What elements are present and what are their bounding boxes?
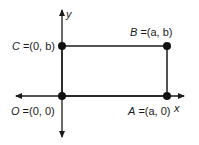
point-B xyxy=(163,42,171,50)
point-A xyxy=(163,92,171,100)
y-axis-label: y xyxy=(65,8,73,20)
label-O-coords: (0, 0) xyxy=(29,105,55,117)
x-axis-label: x xyxy=(173,102,180,114)
label-B-name: B xyxy=(130,26,137,38)
label-C-name: C xyxy=(12,40,20,52)
label-A: A =(a, 0) xyxy=(127,105,171,117)
point-C xyxy=(58,42,66,50)
coordinate-diagram: y x C =(0, b) B =(a, b) O =(0, 0) A =(a,… xyxy=(0,0,199,145)
label-O: O =(0, 0) xyxy=(11,105,55,117)
label-C: C =(0, b) xyxy=(12,40,55,52)
label-B-coords: (a, b) xyxy=(147,26,173,38)
label-A-coords: (a, 0) xyxy=(145,105,171,117)
point-O xyxy=(58,92,66,100)
label-O-name: O xyxy=(11,105,20,117)
label-A-name: A xyxy=(127,105,135,117)
label-B: B =(a, b) xyxy=(130,26,173,38)
label-C-coords: (0, b) xyxy=(29,40,55,52)
